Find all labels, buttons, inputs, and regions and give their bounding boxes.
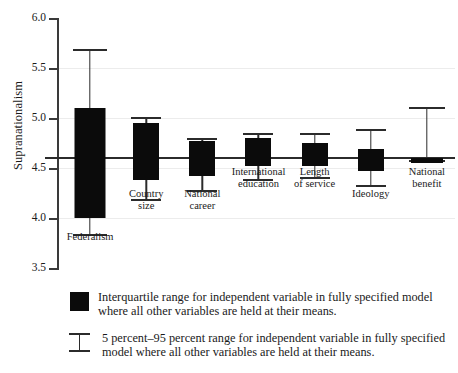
whisker-cap-upper [409, 107, 445, 109]
category-label: Nationalbenefit [409, 166, 445, 189]
legend-item-label: Interquartile range for independent vari… [98, 290, 450, 318]
interquartile-box [411, 158, 443, 163]
chart-group: Internationaleducation [230, 0, 286, 280]
category-label: Nationalcareer [184, 188, 220, 211]
legend-item-label: 5 percent–95 percent range for independe… [102, 331, 454, 359]
category-label: Federalism [67, 231, 114, 243]
legend-item-range: 5 percent–95 percent range for independe… [66, 331, 454, 359]
series-layer: FederalismCountrysizeNationalcareerInter… [0, 0, 458, 280]
chart-group: Nationalbenefit [399, 0, 455, 280]
supranationalism-box-whisker-chart: Supranationalism 3.54.04.55.05.56.0 Fede… [0, 0, 458, 373]
category-label: Countrysize [129, 188, 163, 211]
whisker-cap-upper [131, 117, 161, 119]
interquartile-box [302, 143, 328, 166]
whisker-cap-upper [300, 133, 330, 135]
interquartile-box [358, 149, 384, 171]
chart-group: Countrysize [118, 0, 174, 280]
whisker-cap-upper [356, 129, 386, 131]
filled-box-icon [70, 292, 89, 311]
plot-area: Supranationalism 3.54.04.55.05.56.0 Fede… [0, 0, 458, 280]
whisker-cap-upper [73, 49, 107, 51]
interquartile-box [189, 141, 215, 176]
whisker-cap-upper [187, 138, 217, 140]
whisker-stem [426, 108, 427, 161]
whisker-cap-lower [356, 185, 386, 187]
legend-item-interquartile: Interquartile range for independent vari… [66, 290, 450, 318]
interquartile-box [133, 123, 159, 180]
chart-group: Federalism [62, 0, 118, 280]
chart-legend: Interquartile range for independent vari… [0, 283, 458, 373]
interquartile-box [75, 108, 106, 218]
interquartile-box [245, 138, 271, 166]
category-label: Lengthof service [294, 166, 335, 189]
i-beam-icon [66, 332, 93, 353]
category-label: Internationaleducation [232, 166, 286, 189]
chart-group: Lengthof service [287, 0, 343, 280]
category-label: Ideology [352, 188, 389, 200]
chart-group: Nationalcareer [174, 0, 230, 280]
chart-group: Ideology [343, 0, 399, 280]
whisker-cap-upper [243, 133, 273, 135]
